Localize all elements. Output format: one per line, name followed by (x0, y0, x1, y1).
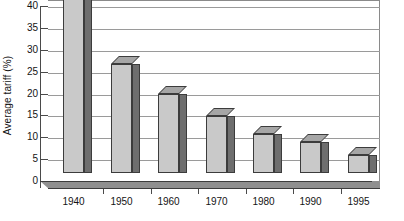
x-axis-tick-label: 1950 (103, 196, 140, 208)
bar-front-face (300, 142, 321, 173)
bar-front-face (253, 134, 274, 173)
bar-side-face (274, 134, 282, 173)
x-axis-tick-label: 1980 (245, 196, 282, 208)
bar[interactable] (63, 0, 92, 181)
bar-chart: Average tariff (%) 0510152025303540 1940… (0, 0, 404, 221)
bar-side-face (179, 94, 187, 173)
bar-side-face (321, 142, 329, 173)
y-axis-tick-label: 35 (17, 23, 38, 33)
bar[interactable] (348, 155, 377, 181)
bar[interactable] (111, 64, 140, 181)
bar-front-face (206, 116, 227, 173)
bars-layer (48, 0, 380, 195)
bar-top-face (300, 134, 329, 142)
bar[interactable] (158, 94, 187, 181)
x-axis-tick-mark (198, 189, 199, 194)
bar-side-face (227, 116, 235, 173)
x-axis-tick-mark (103, 189, 104, 194)
bar[interactable] (206, 116, 235, 181)
bar-side-face (84, 0, 92, 173)
bar-top-face (111, 56, 140, 64)
bar-front-face (348, 155, 369, 173)
x-axis-tick-label: 1940 (55, 196, 92, 208)
y-axis-tick-label: 30 (17, 45, 38, 55)
y-axis-tick-label: 15 (17, 110, 38, 120)
bar-top-face (253, 126, 282, 134)
bar[interactable] (253, 134, 282, 181)
bar[interactable] (300, 142, 329, 181)
x-axis-tick-label: 1995 (340, 196, 377, 208)
y-axis-line-front (40, 6, 41, 188)
y-axis-title-text: Average tariff (%) (3, 55, 14, 134)
bar-side-face (132, 64, 140, 173)
bar-top-face (206, 108, 235, 116)
x-axis-tick-label: 1960 (150, 196, 187, 208)
x-axis-tick-mark (341, 189, 342, 194)
y-axis-tick-labels: 0510152025303540 (17, 0, 38, 190)
bar-side-face (369, 155, 377, 173)
x-axis-tick-label: 1990 (292, 196, 329, 208)
y-axis-tick-label: 5 (17, 154, 38, 164)
y-axis-tick-label: 0 (17, 176, 38, 186)
y-axis-tick-label: 10 (17, 132, 38, 142)
x-axis-tick-mark (246, 189, 247, 194)
y-axis-title: Average tariff (%) (0, 0, 16, 190)
y-axis-tick-label: 20 (17, 89, 38, 99)
x-axis-tick-labels: 1940195019601970198019901995 (48, 196, 380, 212)
bar-front-face (111, 64, 132, 173)
y-axis-tick-label: 25 (17, 67, 38, 77)
bar-top-face (348, 147, 377, 155)
bar-front-face (63, 0, 84, 173)
x-axis-tick-mark (151, 189, 152, 194)
x-axis-tick-label: 1970 (198, 196, 235, 208)
bar-front-face (158, 94, 179, 173)
bar-top-face (158, 86, 187, 94)
y-axis-tick-label: 40 (17, 1, 38, 11)
x-axis-tick-mark (293, 189, 294, 194)
